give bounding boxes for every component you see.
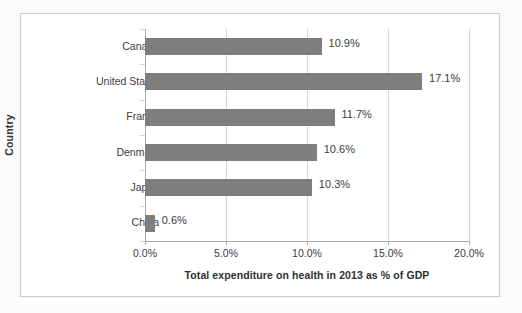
bar-row: 10.9% <box>145 29 469 64</box>
bar-japan[interactable] <box>145 179 312 196</box>
gridline-200 <box>469 29 470 241</box>
x-tick-mark <box>307 241 308 245</box>
bar-denmark[interactable] <box>145 144 317 161</box>
x-tick-label: 20.0% <box>439 247 499 259</box>
plot-area: 10.9%17.1%11.7%10.6%10.3%0.6% <box>145 29 469 241</box>
bar-row: 10.6% <box>145 135 469 170</box>
y-axis-title: Country <box>3 100 21 170</box>
bar-canada[interactable] <box>145 38 322 55</box>
chart-frame: Country CanadaUnited StatesFranceDenmark… <box>20 13 500 297</box>
x-tick-label: 15.0% <box>358 247 418 259</box>
category-label-united-states: United States <box>39 75 159 87</box>
bar-row: 10.3% <box>145 170 469 205</box>
bar-value-label: 10.3% <box>319 178 350 190</box>
x-axis-title: Total expenditure on health in 2013 as %… <box>85 269 522 281</box>
category-label-canada: Canada <box>39 40 159 52</box>
bar-row: 0.6% <box>145 206 469 241</box>
category-label-france: France <box>39 110 159 122</box>
category-label-japan: Japan <box>39 181 159 193</box>
x-tick-label: 0.0% <box>115 247 175 259</box>
x-tick-label: 5.0% <box>196 247 256 259</box>
bar-united-states[interactable] <box>145 73 422 90</box>
bar-france[interactable] <box>145 109 335 126</box>
x-tick-mark <box>226 241 227 245</box>
bar-row: 11.7% <box>145 100 469 135</box>
bar-value-label: 10.9% <box>329 37 360 49</box>
bar-row: 17.1% <box>145 64 469 99</box>
bar-value-label: 0.6% <box>162 214 187 226</box>
category-label-china: China <box>39 216 159 228</box>
x-tick-mark <box>145 241 146 245</box>
bar-value-label: 17.1% <box>429 72 460 84</box>
category-label-denmark: Denmark <box>39 146 159 158</box>
bar-value-label: 11.7% <box>342 108 372 120</box>
x-tick-mark <box>469 241 470 245</box>
x-axis-tick-labels: 0.0%5.0%10.0%15.0%20.0% <box>21 247 522 263</box>
x-tick-mark <box>388 241 389 245</box>
bar-china[interactable] <box>145 215 155 232</box>
chart-screenshot: Country CanadaUnited StatesFranceDenmark… <box>0 0 522 313</box>
bar-value-label: 10.6% <box>324 143 355 155</box>
x-tick-label: 10.0% <box>277 247 337 259</box>
